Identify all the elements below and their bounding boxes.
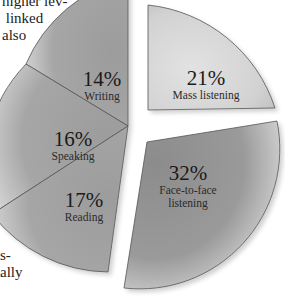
slice-label-writing: 14% Writing xyxy=(83,69,122,103)
slice-label-reading: 17% Reading xyxy=(65,190,104,224)
slice-label-face-to-face: 32% Face-to-face listening xyxy=(159,163,216,210)
slice-percent: 17% xyxy=(65,190,104,211)
slice-percent: 21% xyxy=(173,68,240,89)
slice-percent: 16% xyxy=(52,129,95,150)
slice-label-speaking: 16% Speaking xyxy=(52,129,95,163)
slice-category: Face-to-face xyxy=(159,184,216,197)
slice-label-mass-listening: 21% Mass listening xyxy=(173,68,240,102)
slice-category-line2: listening xyxy=(159,197,216,210)
pie-chart xyxy=(0,0,285,297)
slice-category: Writing xyxy=(83,90,122,103)
slice-percent: 14% xyxy=(83,69,122,90)
slice-category: Reading xyxy=(65,211,104,224)
slice-percent: 32% xyxy=(159,163,216,184)
slice-category: Speaking xyxy=(52,150,95,163)
slice-category: Mass listening xyxy=(173,89,240,102)
